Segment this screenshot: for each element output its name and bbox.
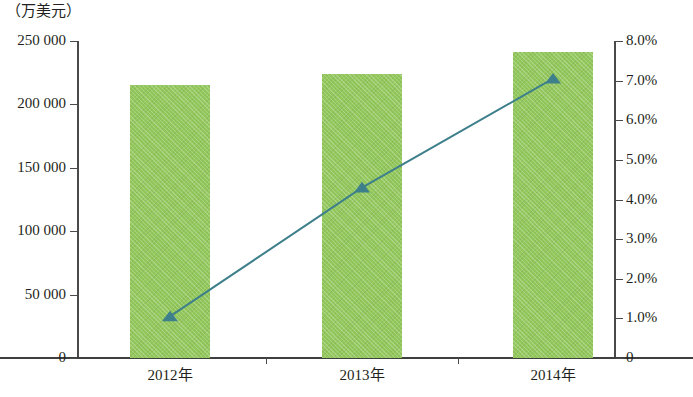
right-tick-mark bbox=[616, 239, 623, 240]
x-label-2012年: 2012年 bbox=[110, 368, 230, 383]
right-tick-label: 4.0% bbox=[626, 192, 688, 207]
right-tick-label: 5.0% bbox=[626, 152, 688, 167]
right-tick-label: 6.0% bbox=[626, 112, 688, 127]
x-tick-mark bbox=[266, 357, 267, 364]
left-tick-label: 150 000 bbox=[0, 160, 66, 175]
left-tick-label: 100 000 bbox=[0, 223, 66, 238]
bar-2014年 bbox=[513, 52, 593, 358]
right-tick-mark bbox=[616, 81, 623, 82]
x-label-2013年: 2013年 bbox=[302, 368, 422, 383]
left-y-axis-line bbox=[77, 41, 79, 359]
x-tick-mark bbox=[458, 357, 459, 364]
right-tick-mark bbox=[616, 160, 623, 161]
right-tick-label: 3.0% bbox=[626, 231, 688, 246]
x-label-2014年: 2014年 bbox=[493, 368, 613, 383]
right-tick-label: 0 bbox=[626, 350, 688, 365]
left-tick-label: 50 000 bbox=[0, 287, 66, 302]
right-tick-label: 1.0% bbox=[626, 310, 688, 325]
right-tick-mark bbox=[616, 279, 623, 280]
bar-2012年 bbox=[130, 85, 210, 358]
left-tick-label: 0 bbox=[0, 350, 66, 365]
right-tick-mark bbox=[616, 318, 623, 319]
right-tick-label: 7.0% bbox=[626, 73, 688, 88]
right-tick-mark bbox=[616, 358, 623, 359]
left-tick-mark bbox=[70, 104, 77, 105]
chart-figure: （万美元） 050 000100 000150 000200 000250 00… bbox=[0, 0, 693, 397]
right-tick-mark bbox=[616, 120, 623, 121]
left-tick-mark bbox=[70, 168, 77, 169]
left-tick-label: 200 000 bbox=[0, 96, 66, 111]
left-tick-mark bbox=[70, 231, 77, 232]
right-tick-label: 8.0% bbox=[626, 33, 688, 48]
y-axis-unit-label: （万美元） bbox=[6, 4, 81, 19]
right-tick-mark bbox=[616, 200, 623, 201]
left-tick-label: 250 000 bbox=[0, 33, 66, 48]
right-tick-label: 2.0% bbox=[626, 271, 688, 286]
bar-2013年 bbox=[322, 74, 402, 358]
left-tick-mark bbox=[70, 295, 77, 296]
left-tick-mark bbox=[70, 41, 77, 42]
right-tick-mark bbox=[616, 41, 623, 42]
left-tick-mark bbox=[70, 358, 77, 359]
